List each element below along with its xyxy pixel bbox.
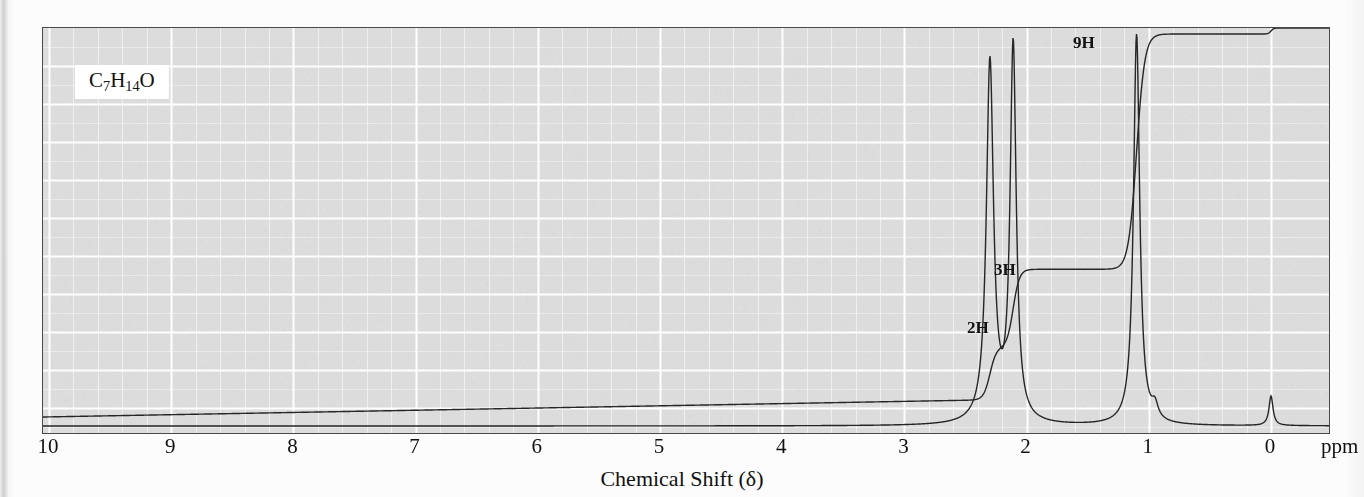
scan-edge-artifact-right: [1346, 0, 1364, 497]
integration-label-2h: 2H: [967, 319, 989, 336]
scan-edge-artifact-left-soft: [9, 0, 16, 497]
x-tick-5: 5: [654, 434, 665, 459]
x-tick-6: 6: [532, 434, 543, 459]
x-tick-8: 8: [287, 434, 298, 459]
x-tick-10: 10: [38, 434, 59, 459]
x-tick-7: 7: [409, 434, 420, 459]
x-tick-1: 1: [1143, 434, 1154, 459]
x-axis-unit-label: ppm: [1321, 434, 1358, 459]
scan-edge-artifact-left: [0, 0, 9, 497]
spectrum-plot-area: C7H14O 9H 3H 2H: [42, 27, 1330, 434]
spectrum-traces: [43, 28, 1329, 433]
x-tick-4: 4: [776, 434, 787, 459]
absorption-trace: [43, 34, 1329, 426]
x-axis-ticks: 109876543210ppm: [42, 434, 1328, 464]
molecular-formula-text: C7H14O: [89, 68, 155, 92]
integration-label-9h: 9H: [1073, 34, 1095, 51]
x-axis-title: Chemical Shift (δ): [0, 466, 1364, 492]
integration-label-3h: 3H: [994, 261, 1016, 278]
integration-curve: [43, 28, 1329, 417]
x-tick-3: 3: [898, 434, 909, 459]
x-tick-9: 9: [165, 434, 176, 459]
figure-root: C7H14O 9H 3H 2H 109876543210ppm Chemical…: [0, 0, 1364, 497]
x-tick-0: 0: [1265, 434, 1276, 459]
x-tick-2: 2: [1020, 434, 1031, 459]
molecular-formula-label: C7H14O: [75, 65, 169, 99]
